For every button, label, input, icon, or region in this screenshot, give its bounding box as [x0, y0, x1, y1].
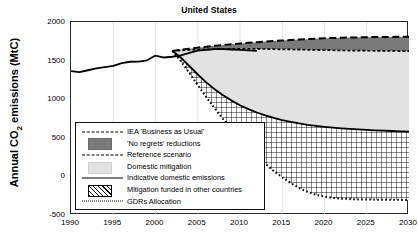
y-axis-label-post: emissions (MtC)	[8, 38, 20, 126]
legend-item-4: Indicative domestic emissions	[80, 172, 260, 184]
legend-key-diagonal-hatch-swatch	[80, 184, 124, 195]
legend-item-3: Domestic mitigation	[80, 161, 260, 173]
x-tick-1995: 1995	[92, 218, 132, 227]
legend-label-3: Domestic mitigation	[124, 163, 191, 170]
solid-line-icon	[82, 178, 123, 179]
x-tick-2010: 2010	[219, 218, 259, 227]
y-tick-1500: 1500	[29, 55, 65, 64]
legend-label-1: 'No regrets' reductions	[124, 140, 200, 147]
y-tick-0: 0	[29, 171, 65, 180]
legend-item-1: 'No regrets' reductions	[80, 138, 260, 150]
x-tick-2000: 2000	[135, 218, 175, 227]
y-tick-2000: 2000	[29, 17, 65, 26]
legend-label-0: IEA 'Business as Usual'	[124, 128, 204, 135]
y-axis-label: Annual CO2 emissions (MtC)	[8, 23, 23, 203]
short-dashed-line-icon	[82, 154, 123, 155]
x-tick-1990: 1990	[50, 218, 90, 227]
legend-label-5: Mitigation funded in other countries	[124, 186, 242, 193]
x-tick-2020: 2020	[304, 218, 344, 227]
x-tick-2030: 2030	[388, 218, 418, 227]
dotted-line-icon	[82, 201, 123, 202]
legend-key-dark-gray-swatch	[80, 138, 124, 149]
legend-key-dotted-line	[80, 196, 124, 207]
chart-legend: IEA 'Business as Usual''No regrets' redu…	[75, 122, 265, 210]
legend-item-6: GDRs Allocation	[80, 196, 260, 208]
legend-item-2: Reference scenario	[80, 149, 260, 161]
legend-key-short-dashed-line	[80, 149, 124, 160]
y-axis-label-subscript: 2	[15, 126, 24, 130]
legend-key-solid-line	[80, 173, 124, 184]
x-tick-2005: 2005	[177, 218, 217, 227]
legend-label-6: GDRs Allocation	[124, 198, 181, 205]
x-tick-2025: 2025	[346, 218, 386, 227]
chart-figure: United States Annual CO2 emissions (MtC)…	[0, 0, 418, 252]
legend-key-long-dashed-line	[80, 126, 124, 137]
x-tick-2015: 2015	[261, 218, 301, 227]
y-tick-500: 500	[29, 132, 65, 141]
chart-title: United States	[0, 5, 418, 15]
y-tick-1000: 1000	[29, 94, 65, 103]
long-dashed-line-icon	[82, 131, 123, 132]
legend-item-0: IEA 'Business as Usual'	[80, 126, 260, 138]
legend-label-4: Indicative domestic emissions	[124, 174, 225, 181]
legend-label-2: Reference scenario	[124, 151, 191, 158]
legend-item-5: Mitigation funded in other countries	[80, 184, 260, 196]
legend-key-light-gray-swatch	[80, 161, 124, 172]
y-axis-label-pre: Annual CO	[8, 130, 20, 187]
